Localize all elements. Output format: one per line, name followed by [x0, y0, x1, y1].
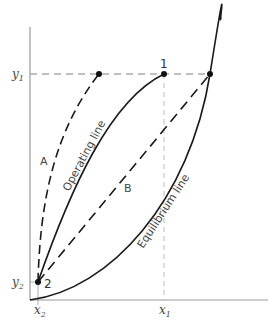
operating-line-label: Operating line	[60, 118, 108, 193]
line-b-label: B	[124, 182, 132, 195]
point-1	[161, 71, 167, 77]
x1-label: x1	[159, 303, 171, 319]
point-2	[35, 279, 41, 285]
point-intersection	[207, 71, 213, 77]
y1-label: y1	[11, 67, 24, 83]
curve-a-label: A	[40, 155, 48, 168]
point-a-end	[96, 71, 102, 77]
point-2-label: 2	[44, 277, 52, 291]
equilibrium-line-label: Equilibrium line	[135, 172, 193, 251]
x2-label: x2	[34, 303, 46, 319]
point-1-label: 1	[160, 57, 168, 71]
diagram-canvas: y1 y2 x2 x1 1 2 A B Operating line Equil…	[0, 0, 278, 329]
y2-label: y2	[11, 275, 24, 291]
